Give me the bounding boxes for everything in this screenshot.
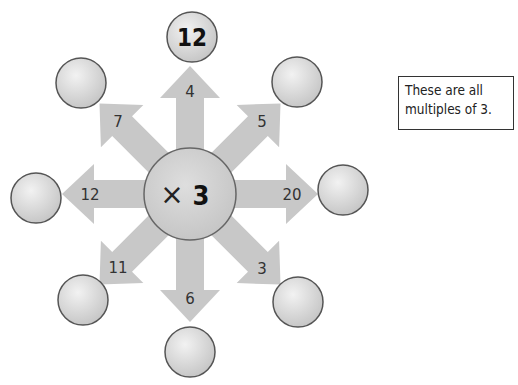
- answer-circle-up-left[interactable]: [56, 58, 106, 108]
- multiples-note: These are all multiples of 3.: [398, 76, 514, 130]
- answer-circle-down[interactable]: [165, 327, 215, 377]
- answer-circle-up-right[interactable]: [272, 57, 322, 107]
- answer-circle-left[interactable]: [11, 173, 61, 223]
- input-down-right: 3: [257, 260, 267, 278]
- hub-multiplier: 3: [193, 180, 210, 211]
- hub-operator: ×: [160, 178, 183, 211]
- note-line-1: These are all: [405, 81, 507, 100]
- input-left: 12: [80, 186, 99, 204]
- input-down-left: 11: [108, 259, 127, 277]
- hub-circle: [144, 148, 236, 240]
- input-right: 20: [282, 186, 301, 204]
- answer-circle-right[interactable]: [318, 165, 368, 215]
- answer-circle-down-right[interactable]: [273, 277, 323, 327]
- input-up: 4: [185, 83, 195, 101]
- input-up-right: 5: [257, 113, 267, 131]
- input-up-left: 7: [113, 113, 123, 131]
- answer-up: 12: [177, 24, 207, 52]
- multiplication-spider-diagram: × 3 4 5 20 3 6 11 12 7 12: [0, 0, 518, 385]
- answer-circle-down-left[interactable]: [58, 275, 108, 325]
- input-down: 6: [185, 290, 195, 308]
- note-line-2: multiples of 3.: [405, 100, 507, 119]
